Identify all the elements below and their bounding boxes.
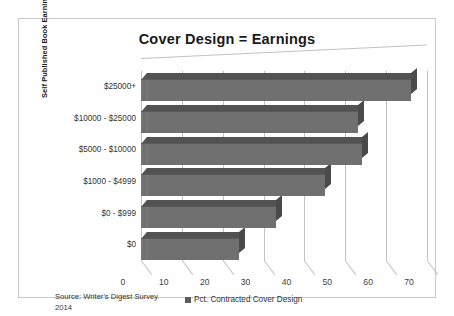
- y-axis-tick-label: $5000 - $10000: [79, 145, 136, 154]
- gridline-depth-edge: [223, 261, 234, 275]
- gridline-depth-edge: [345, 261, 356, 275]
- y-axis-tick-label: $0: [127, 240, 136, 249]
- x-axis-tick-label: 40: [274, 277, 298, 287]
- x-axis-tick-label: 30: [234, 277, 258, 287]
- bar[interactable]: [141, 111, 358, 132]
- y-axis-tick-label: $1000 - $4999: [83, 177, 136, 186]
- y-axis-tick-label: $0 - $999: [101, 209, 136, 218]
- x-axis-tick-label: 0: [111, 277, 135, 287]
- bar-side-face: [411, 68, 417, 94]
- bar[interactable]: [141, 174, 325, 195]
- bar-side-face: [276, 195, 282, 221]
- gridline: [427, 71, 428, 261]
- bar-side-face: [239, 227, 245, 253]
- bar-face: [141, 143, 362, 165]
- gridline-depth-edge: [427, 261, 438, 275]
- bar-face: [141, 206, 276, 228]
- bar-side-face: [358, 100, 364, 126]
- bar-side-face: [325, 163, 331, 189]
- x-axis-tick-label: 60: [356, 277, 380, 287]
- x-axis-tick-label: 20: [193, 277, 217, 287]
- x-axis-tick-label: 70: [397, 277, 421, 287]
- chart-legend: Pct. Contracted Cover Design: [185, 295, 302, 304]
- bar-face: [141, 79, 411, 101]
- y-axis-tick-label: $10000 - $25000: [74, 114, 136, 123]
- x-axis-tick-label: 10: [152, 277, 176, 287]
- chart-title: Cover Design = Earnings: [19, 31, 435, 47]
- gridline-depth-edge: [305, 261, 316, 275]
- bar[interactable]: [141, 79, 411, 100]
- gridline-depth-edge: [141, 261, 152, 275]
- source-line-1: Source: Writer's Digest Survey: [55, 291, 185, 302]
- bar[interactable]: [141, 143, 362, 164]
- legend-swatch-icon: [185, 297, 191, 303]
- bar-face: [141, 238, 239, 260]
- chart-page: Cover Design = Earnings Self Published B…: [0, 0, 454, 316]
- bar-face: [141, 111, 358, 133]
- legend-label: Pct. Contracted Cover Design: [194, 295, 302, 304]
- bar[interactable]: [141, 238, 239, 259]
- bar-side-face: [362, 132, 368, 158]
- y-axis-tick-label: $25000+: [104, 82, 136, 91]
- source-note: Source: Writer's Digest Survey 2014: [55, 291, 185, 313]
- plot-area: [141, 71, 427, 261]
- gridline-depth-edge: [386, 261, 397, 275]
- bar-face: [141, 174, 325, 196]
- bar[interactable]: [141, 206, 276, 227]
- y-axis-title: Self Published Book Earnings: [40, 0, 49, 109]
- source-line-2: 2014: [55, 302, 185, 313]
- gridline-depth-edge: [182, 261, 193, 275]
- gridline-depth-edge: [264, 261, 275, 275]
- x-axis-tick-label: 50: [315, 277, 339, 287]
- chart-frame: Cover Design = Earnings Self Published B…: [18, 18, 436, 298]
- y-axis-tick-labels: $0$0 - $999$1000 - $4999$5000 - $10000$1…: [57, 71, 136, 261]
